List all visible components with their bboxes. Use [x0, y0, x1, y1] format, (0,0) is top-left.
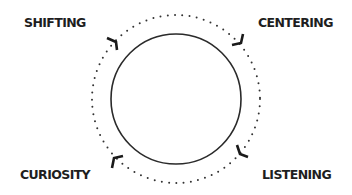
- inner-circle: [111, 34, 241, 164]
- chevron-arrow-icon-bottom-left: [112, 156, 123, 168]
- label-centering: CENTERING: [258, 16, 333, 30]
- label-shifting: SHIFTING: [24, 16, 86, 30]
- chevron-arrow-icon-bottom-right: [237, 145, 248, 157]
- label-curiosity: CURIOSITY: [20, 168, 90, 182]
- label-listening: LISTENING: [262, 168, 331, 182]
- chevron-arrow-icon-top-right: [232, 34, 243, 45]
